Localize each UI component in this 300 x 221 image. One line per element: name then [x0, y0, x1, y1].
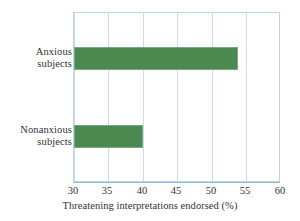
x-tick-6: 60 [265, 185, 295, 196]
x-tick-1: 35 [92, 185, 122, 196]
x-tick-3: 45 [161, 185, 191, 196]
category-label-anxious: Anxious subjects [0, 46, 72, 69]
x-tick-4: 50 [196, 185, 226, 196]
gridline-55 [246, 13, 247, 181]
gridline-45 [177, 13, 178, 181]
category-label-anxious-line2: subjects [0, 58, 72, 70]
category-label-nonanxious: Nonanxious subjects [0, 124, 72, 147]
category-label-anxious-line1: Anxious [36, 46, 72, 57]
x-tick-2: 40 [127, 185, 157, 196]
gridline-30 [74, 13, 75, 181]
bar-anxious-subjects [74, 47, 238, 70]
bar-nonanxious-subjects [74, 125, 143, 148]
gridline-50 [212, 13, 213, 181]
x-axis-title: Threatening interpretations endorsed (%) [0, 200, 300, 211]
category-label-nonanxious-line1: Nonanxious [20, 124, 72, 135]
bar-chart: Anxious subjects Nonanxious subjects 30 … [0, 0, 300, 221]
gridline-35 [108, 13, 109, 181]
x-tick-0: 30 [58, 185, 88, 196]
plot-area [73, 12, 280, 182]
category-label-nonanxious-line2: subjects [0, 136, 72, 148]
x-axis-line [73, 182, 280, 183]
gridline-40 [143, 13, 144, 181]
x-tick-5: 55 [230, 185, 260, 196]
